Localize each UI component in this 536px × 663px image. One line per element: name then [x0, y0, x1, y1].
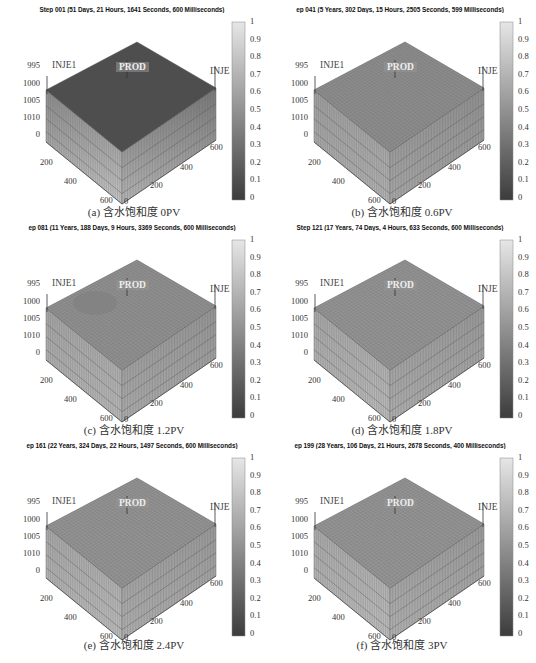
well-label-inje: INJE	[478, 502, 498, 512]
y-tick: 400	[180, 380, 193, 390]
z-tick: 1010	[14, 548, 40, 558]
colorbar-tick: 0.2	[518, 157, 529, 167]
z-tick: 995	[282, 60, 308, 70]
well-label-prod: PROD	[384, 280, 417, 290]
colorbar-tick: 0.2	[250, 157, 261, 167]
subplot-panel-f: ep 199 (28 Years, 106 Days, 21 Hours, 26…	[268, 436, 536, 654]
x-tick: 400	[332, 176, 345, 186]
y-tick: 600	[210, 142, 223, 152]
colorbar-tick: 0.3	[250, 357, 261, 367]
colorbar-tick: 0.2	[250, 375, 261, 385]
y-tick: 200	[150, 616, 163, 626]
y-tick: 600	[478, 142, 491, 152]
colorbar-tick: 0	[518, 192, 522, 202]
colorbar-tick: 0.6	[518, 86, 529, 96]
colorbar-tick: 0.8	[518, 51, 529, 61]
subplot-panel-a: Step 001 (51 Days, 21 Hours, 1641 Second…	[0, 0, 268, 218]
subplot-caption: (b) 含水饱和度 0.6PV	[268, 203, 536, 219]
y-tick: 400	[448, 380, 461, 390]
reservoir-3d-grid	[268, 436, 536, 654]
subplot-panel-b: ep 041 (5 Years, 302 Days, 15 Hours, 250…	[268, 0, 536, 218]
colorbar-tick: 0.3	[518, 575, 529, 585]
colorbar-tick: 0.9	[250, 252, 261, 262]
colorbar-tick: 0.3	[250, 139, 261, 149]
colorbar-tick: 0.7	[250, 287, 261, 297]
colorbar-tick: 1	[250, 234, 254, 244]
colorbar-tick: 0.2	[518, 375, 529, 385]
y-tick: 200	[418, 616, 431, 626]
well-label-prod: PROD	[116, 280, 149, 290]
y-tick: 400	[180, 598, 193, 608]
subplot-caption: (d) 含水饱和度 1.8PV	[268, 421, 536, 437]
colorbar-tick: 0.4	[518, 122, 529, 132]
well-label-prod: PROD	[116, 498, 149, 508]
colorbar-tick: 0.9	[518, 470, 529, 480]
z-tick: 0	[282, 565, 308, 575]
z-tick: 995	[14, 496, 40, 506]
y-tick: 600	[210, 578, 223, 588]
x-tick: 400	[64, 394, 77, 404]
well-label-inje: INJE	[210, 502, 230, 512]
colorbar-tick: 0.9	[250, 34, 261, 44]
colorbar-tick: 1	[250, 452, 254, 462]
colorbar-tick: 0.9	[518, 34, 529, 44]
y-tick: 400	[180, 162, 193, 172]
colorbar-tick: 0.1	[250, 610, 261, 620]
z-tick: 1000	[14, 78, 40, 88]
colorbar-tick: 0.5	[518, 322, 529, 332]
colorbar-tick: 0.1	[250, 174, 261, 184]
colorbar-tick: 1	[250, 16, 254, 26]
colorbar-tick: 0	[518, 628, 522, 638]
subplot-title: Step 001 (51 Days, 21 Hours, 1641 Second…	[0, 6, 264, 13]
z-tick: 1000	[282, 514, 308, 524]
z-tick: 0	[14, 565, 40, 575]
z-tick: 1010	[282, 548, 308, 558]
colorbar-tick: 0.5	[518, 540, 529, 550]
subplot-caption: (c) 含水饱和度 1.2PV	[0, 421, 268, 437]
reservoir-3d-grid	[268, 218, 536, 436]
colorbar-tick: 0	[250, 410, 254, 420]
z-tick: 1005	[14, 95, 40, 105]
z-tick: 1010	[282, 330, 308, 340]
z-tick: 1010	[14, 330, 40, 340]
well-label-inje1: INJE1	[52, 496, 76, 506]
reservoir-3d-grid	[0, 0, 268, 218]
z-tick: 1005	[14, 531, 40, 541]
colorbar-tick: 0.4	[250, 340, 261, 350]
subplot-caption: (e) 含水饱和度 2.4PV	[0, 636, 268, 652]
y-tick: 200	[150, 180, 163, 190]
well-label-prod: PROD	[116, 62, 149, 72]
colorbar-tick: 0.9	[250, 470, 261, 480]
subplot-panel-e: ep 161 (22 Years, 324 Days, 22 Hours, 14…	[0, 436, 268, 654]
reservoir-3d-grid	[0, 218, 268, 436]
colorbar-tick: 0.1	[250, 392, 261, 402]
y-tick: 200	[150, 398, 163, 408]
colorbar-tick: 0.8	[518, 487, 529, 497]
colorbar-tick: 0.4	[518, 340, 529, 350]
colorbar-tick: 0.5	[518, 104, 529, 114]
well-label-inje: INJE	[210, 66, 230, 76]
colorbar-tick: 0.6	[518, 304, 529, 314]
subplot-panel-d: Step 121 (17 Years, 74 Days, 4 Hours, 63…	[268, 218, 536, 436]
x-tick: 200	[40, 157, 53, 167]
z-tick: 995	[282, 496, 308, 506]
x-tick: 200	[308, 157, 321, 167]
y-tick: 400	[448, 162, 461, 172]
well-label-prod: PROD	[384, 62, 417, 72]
colorbar-tick: 0.5	[250, 540, 261, 550]
z-tick: 1005	[282, 531, 308, 541]
z-tick: 0	[14, 129, 40, 139]
colorbar-tick: 0.8	[250, 487, 261, 497]
subplot-caption: (a) 含水饱和度 0PV	[0, 203, 268, 219]
subplot-caption: (f) 含水饱和度 3PV	[268, 636, 536, 652]
y-tick: 200	[418, 398, 431, 408]
well-label-inje1: INJE1	[52, 60, 76, 70]
subplot-title: Step 121 (17 Years, 74 Days, 4 Hours, 63…	[268, 224, 532, 231]
x-tick: 200	[308, 593, 321, 603]
colorbar-tick: 0.8	[250, 269, 261, 279]
colorbar-tick: 0.2	[518, 593, 529, 603]
colorbar-tick: 0.4	[250, 558, 261, 568]
colorbar-tick: 0.5	[250, 322, 261, 332]
colorbar-tick: 1	[518, 452, 522, 462]
subplot-panel-c: ep 081 (11 Years, 188 Days, 9 Hours, 336…	[0, 218, 268, 436]
